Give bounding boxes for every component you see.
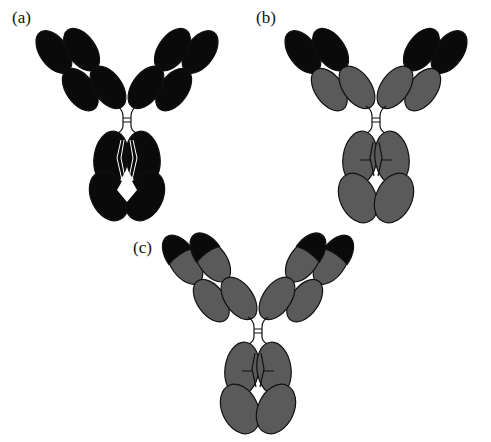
ch3-domain-right xyxy=(249,378,304,440)
antibody-a xyxy=(29,22,226,227)
antibody-diagram xyxy=(0,0,491,442)
antibody-b xyxy=(278,11,475,230)
ch3-domain-right xyxy=(367,167,422,229)
hinge-disulfide xyxy=(366,106,386,134)
hinge-disulfide xyxy=(117,106,137,134)
antibody-c xyxy=(155,215,361,440)
hinge-disulfide xyxy=(248,317,268,345)
